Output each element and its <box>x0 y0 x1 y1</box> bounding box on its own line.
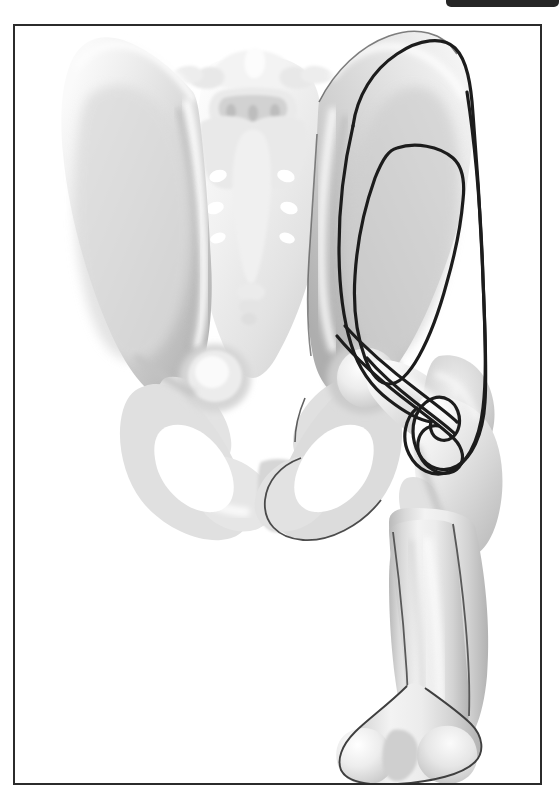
lateral-condyle <box>417 726 477 783</box>
anatomy-illustration <box>15 26 540 783</box>
page-root: pelvis with right hip and femur <box>0 0 559 799</box>
figure-frame: pelvis with right hip and femur <box>13 24 542 785</box>
top-bar <box>446 0 559 7</box>
left-acetabulum <box>179 344 251 412</box>
